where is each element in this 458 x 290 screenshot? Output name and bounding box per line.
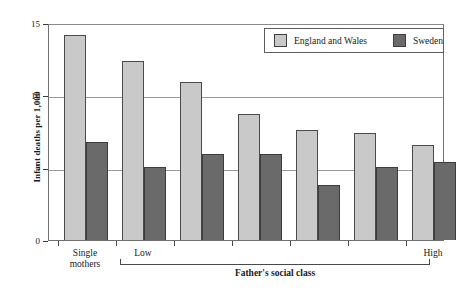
bar-sweden-group-5 — [376, 167, 398, 240]
y-tick-label: 15 — [18, 20, 40, 29]
x-category-label-line1: Low — [108, 248, 178, 259]
x-tick-mark — [348, 241, 349, 246]
legend-swatch-icon — [274, 34, 287, 47]
bar-sweden-group-3 — [260, 154, 282, 240]
x-tick-mark — [174, 241, 175, 246]
x-tick-mark — [290, 241, 291, 246]
y-tick-label: 5 — [18, 164, 40, 173]
bar-england-wales-group-5 — [354, 133, 376, 240]
y-tick-label: 0 — [18, 237, 40, 246]
legend-entry-sweden: Sweden — [393, 29, 443, 52]
legend-label: England and Wales — [294, 36, 367, 46]
y-axis-title: Infant deaths per 1,000 — [32, 37, 42, 237]
bar-england-wales-group-1 — [122, 61, 144, 240]
x-tick-mark — [406, 241, 407, 246]
bar-sweden-group-2 — [202, 154, 224, 240]
x-tick-mark — [116, 241, 117, 246]
legend-swatch-icon — [393, 34, 406, 47]
bar-england-wales-group-0 — [64, 35, 86, 240]
x-tick-mark — [58, 241, 59, 246]
x-axis-title: Father's social class — [120, 268, 430, 278]
bar-england-wales-group-4 — [296, 130, 318, 240]
y-tick-label: 10 — [18, 92, 40, 101]
y-tick-mark — [43, 241, 48, 242]
bar-england-wales-group-6 — [412, 145, 434, 240]
bar-england-wales-group-2 — [180, 82, 202, 240]
social-class-bracket — [120, 259, 430, 265]
legend-entry-england-wales: England and Wales — [274, 29, 367, 52]
bar-sweden-group-4 — [318, 185, 340, 240]
x-category-label-line2: mothers — [50, 259, 120, 270]
x-tick-mark — [232, 241, 233, 246]
bar-sweden-group-6 — [434, 162, 456, 240]
x-category-label: High — [398, 248, 458, 259]
gridline — [49, 97, 443, 98]
bar-sweden-group-0 — [86, 142, 108, 240]
plot-area — [48, 24, 444, 241]
legend-label: Sweden — [413, 36, 443, 46]
x-category-label: Low — [108, 248, 178, 259]
infant-mortality-bar-chart: Infant deaths per 1,000 051015 England a… — [0, 0, 458, 290]
bar-sweden-group-1 — [144, 167, 166, 240]
x-category-label-line1: High — [398, 248, 458, 259]
legend: England and WalesSweden — [264, 28, 444, 53]
bar-england-wales-group-3 — [238, 114, 260, 240]
